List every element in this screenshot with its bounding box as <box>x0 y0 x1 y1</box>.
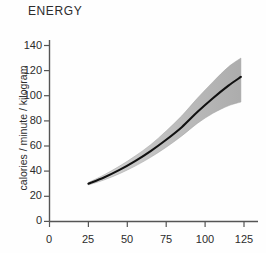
x-axis-ticks <box>50 222 245 228</box>
energy-curve <box>88 77 240 184</box>
uncertainty-band <box>88 58 240 185</box>
energy-chart-figure: ENERGY calories / minute / kilogram 140 … <box>0 0 266 253</box>
y-axis-ticks <box>44 46 50 222</box>
plot-area <box>0 0 266 253</box>
